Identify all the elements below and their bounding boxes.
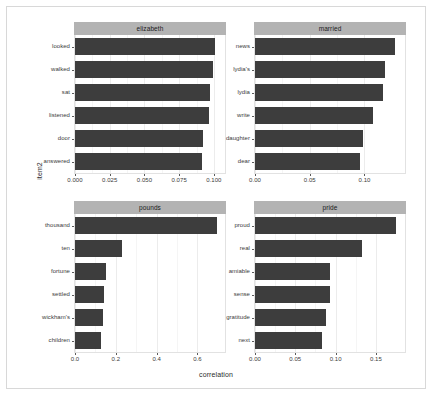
bar-series — [75, 214, 225, 352]
bar-row — [255, 84, 405, 101]
bar-row — [255, 217, 405, 234]
x-tick-mark — [376, 353, 377, 355]
x-tick-mark — [310, 174, 311, 176]
bar-row — [255, 38, 405, 55]
y-tick-label-answered: answered — [26, 158, 70, 164]
bar-row — [75, 332, 225, 349]
x-tick-label: 0.00 — [240, 177, 270, 183]
y-tick-mark — [252, 93, 254, 94]
y-tick-mark — [72, 249, 74, 250]
x-tick-label: 0.00 — [240, 356, 270, 362]
y-tick-label-news: news — [206, 43, 250, 49]
x-tick-label: 0.10 — [349, 177, 379, 183]
bar-lydia — [255, 84, 383, 101]
facet-strip-label: pounds — [74, 201, 226, 214]
bar-dear — [255, 153, 360, 170]
x-tick-mark — [214, 174, 215, 176]
x-tick-mark — [364, 174, 365, 176]
bar-sense — [255, 286, 330, 303]
x-tick-mark — [336, 353, 337, 355]
bar-settled — [75, 286, 104, 303]
y-tick-label-next: next — [206, 337, 250, 343]
plot-area-pounds — [74, 214, 226, 353]
y-tick-mark — [252, 162, 254, 163]
y-tick-mark — [72, 341, 74, 342]
x-tick-mark — [197, 353, 198, 355]
bar-row — [255, 107, 405, 124]
facet-panel-pounds: pounds — [74, 201, 226, 353]
x-tick-mark — [179, 174, 180, 176]
y-tick-mark — [252, 249, 254, 250]
bar-thousand — [75, 217, 217, 234]
facet-strip-label: pride — [254, 201, 406, 214]
y-tick-mark — [252, 272, 254, 273]
bar-write — [255, 107, 373, 124]
x-tick-label: 0.10 — [321, 356, 351, 362]
y-tick-mark — [72, 70, 74, 71]
facet-strip-label: elizabeth — [74, 22, 226, 35]
bar-daughter — [255, 130, 363, 147]
y-tick-label-write: write — [206, 112, 250, 118]
bar-row — [255, 153, 405, 170]
y-tick-mark — [252, 341, 254, 342]
facet-strip-elizabeth: elizabeth — [74, 22, 226, 35]
y-tick-label-children: children — [26, 337, 70, 343]
y-tick-mark — [252, 70, 254, 71]
y-tick-label-listened: listened — [26, 112, 70, 118]
y-tick-mark — [252, 139, 254, 140]
y-tick-label-looked: looked — [26, 43, 70, 49]
y-tick-label-amiable: amiable — [206, 268, 250, 274]
y-tick-mark — [72, 93, 74, 94]
x-tick-label: 0.6 — [182, 356, 212, 362]
bar-lydia's — [255, 61, 385, 78]
y-tick-label-lydia: lydia — [206, 89, 250, 95]
facet-panel-pride: pride — [254, 201, 406, 353]
y-tick-label-dear: dear — [206, 158, 250, 164]
y-tick-mark — [72, 139, 74, 140]
x-tick-label: 0.075 — [164, 177, 194, 183]
facet-strip-pounds: pounds — [74, 201, 226, 214]
bar-next — [255, 332, 322, 349]
y-tick-label-wickham's: wickham's — [26, 314, 70, 320]
y-tick-mark — [72, 272, 74, 273]
plot-area-elizabeth — [74, 35, 226, 174]
bar-row — [255, 130, 405, 147]
bar-row — [75, 130, 225, 147]
facet-panel-married: married — [254, 22, 406, 174]
x-tick-label: 0.0 — [60, 356, 90, 362]
bar-answered — [75, 153, 202, 170]
facet-strip-pride: pride — [254, 201, 406, 214]
y-tick-mark — [72, 162, 74, 163]
x-tick-label: 0.15 — [361, 356, 391, 362]
x-tick-mark — [110, 174, 111, 176]
bar-listened — [75, 107, 209, 124]
bar-row — [75, 38, 225, 55]
plot-area-married — [254, 35, 406, 174]
x-tick-mark — [295, 353, 296, 355]
bar-proud — [255, 217, 396, 234]
bar-news — [255, 38, 395, 55]
x-tick-mark — [75, 174, 76, 176]
y-tick-mark — [72, 295, 74, 296]
facet-panel-elizabeth: elizabeth — [74, 22, 226, 174]
bar-series — [75, 35, 225, 173]
x-tick-label: 0.2 — [101, 356, 131, 362]
y-tick-label-daughter: daughter — [206, 135, 250, 141]
y-tick-mark — [252, 295, 254, 296]
bar-row — [255, 61, 405, 78]
y-tick-label-real: real — [206, 245, 250, 251]
y-tick-label-walked: walked — [26, 66, 70, 72]
bar-ten — [75, 240, 122, 257]
x-tick-label: 0.05 — [295, 177, 325, 183]
x-tick-mark — [157, 353, 158, 355]
x-tick-label: 0.05 — [280, 356, 310, 362]
y-tick-label-door: door — [26, 135, 70, 141]
bar-row — [75, 153, 225, 170]
bar-row — [75, 61, 225, 78]
bar-row — [255, 286, 405, 303]
bar-fortune — [75, 263, 106, 280]
x-tick-label: 0.100 — [199, 177, 229, 183]
y-tick-mark — [252, 116, 254, 117]
x-tick-mark — [116, 353, 117, 355]
x-tick-label: 0.4 — [142, 356, 172, 362]
